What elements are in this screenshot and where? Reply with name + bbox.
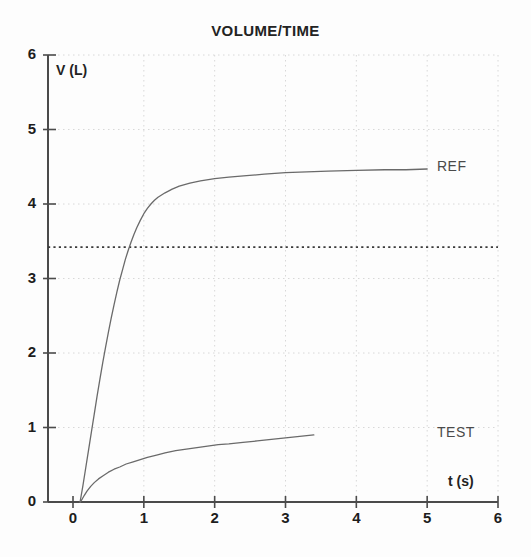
x-tick-label: 4 [345,509,367,526]
plot-area [0,0,531,557]
grid-lines [48,55,498,502]
x-tick-label: 1 [133,509,155,526]
x-tick-label: 6 [487,509,509,526]
y-tick-label: 0 [14,492,36,509]
series-label-test: TEST [437,424,475,440]
x-tick-label: 0 [62,509,84,526]
y-tick-label: 1 [14,418,36,435]
chart-container: VOLUME/TIME V (L) t (s) 0123456 0123456 … [0,0,531,557]
y-tick-label: 4 [14,194,36,211]
x-tick-label: 2 [204,509,226,526]
y-tick-label: 2 [14,343,36,360]
y-tick-label: 6 [14,45,36,62]
y-tick-label: 5 [14,120,36,137]
series-label-ref: REF [437,158,467,174]
y-tick-label: 3 [14,269,36,286]
x-tick-label: 3 [275,509,297,526]
x-tick-label: 5 [416,509,438,526]
data-series [80,169,427,502]
